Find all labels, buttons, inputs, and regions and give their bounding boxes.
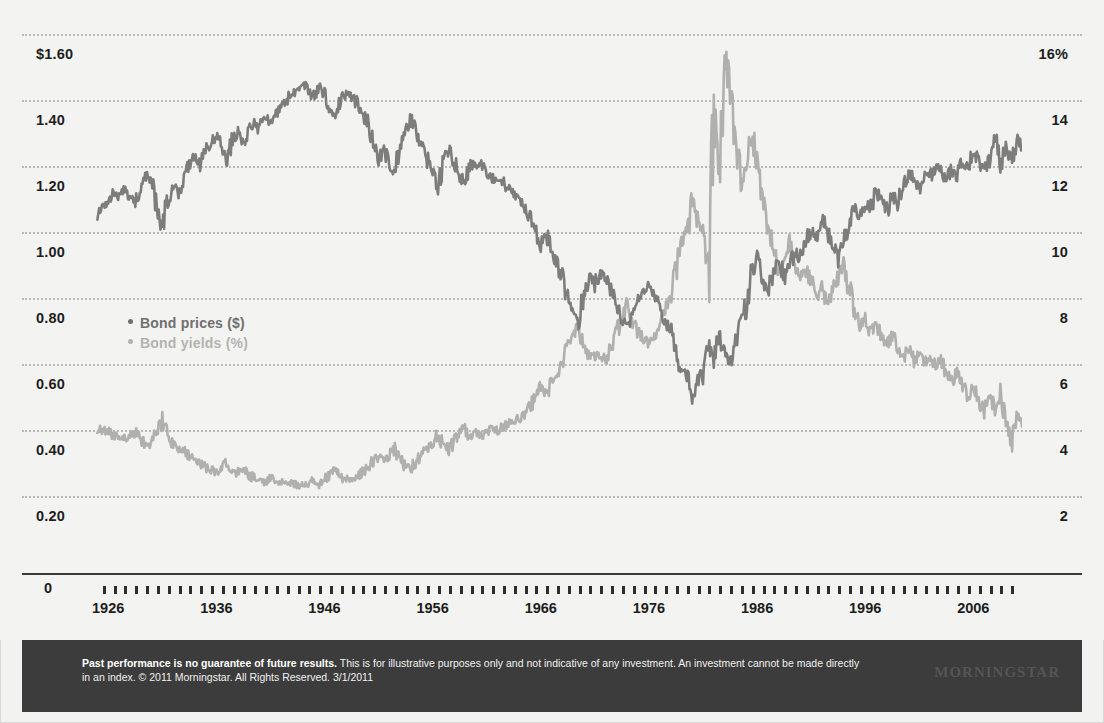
x-axis-tick-label: 1986 <box>741 600 773 616</box>
x-axis-tick-label: 1996 <box>849 600 881 616</box>
x-axis-tick <box>622 586 625 594</box>
y-axis-left-tick-label: 0.60 <box>36 376 65 392</box>
x-axis-tick <box>698 586 701 594</box>
y-axis-right-tick-label: 2 <box>1060 508 1068 524</box>
x-axis-tick <box>308 586 311 594</box>
x-axis-tick <box>481 586 484 594</box>
x-axis-tick <box>708 586 711 594</box>
x-axis-tick <box>600 586 603 594</box>
x-axis-tick <box>752 586 755 594</box>
x-axis-tick <box>124 586 127 594</box>
disclaimer-text: Past performance is no guarantee of futu… <box>82 656 862 684</box>
y-axis-left-tick-label: 1.20 <box>36 178 65 194</box>
x-axis-tick <box>968 586 971 594</box>
y-axis-left-tick-label: 0.80 <box>36 310 65 326</box>
plot-lines <box>92 34 1022 496</box>
y-axis-right-tick-label: 14 <box>1051 112 1068 128</box>
x-axis-tick <box>492 586 495 594</box>
x-axis-tick <box>611 586 614 594</box>
chart-area: $1.601.401.201.000.800.600.400.20 16%141… <box>0 0 1104 640</box>
x-axis-tick <box>1000 586 1003 594</box>
x-axis-tick <box>157 586 160 594</box>
x-axis-tick <box>319 586 322 594</box>
x-axis-tick <box>849 586 852 594</box>
y-axis-right-tick-label: 6 <box>1060 376 1068 392</box>
x-axis-tick <box>179 586 182 594</box>
x-axis-tick <box>287 586 290 594</box>
x-axis-tick <box>1011 586 1014 594</box>
x-axis-tick <box>211 586 214 594</box>
y-axis-right-tick-label: 12 <box>1051 178 1068 194</box>
legend-item-bond-yields: Bond yields (%) <box>128 334 248 352</box>
x-axis-tick <box>773 586 776 594</box>
morningstar-logo: MORNINGSTAR <box>934 664 1060 681</box>
x-axis-tick <box>881 586 884 594</box>
x-axis-tick <box>406 586 409 594</box>
legend-label: Bond yields (%) <box>140 335 248 351</box>
x-axis-tick <box>730 586 733 594</box>
x-axis-tick <box>200 586 203 594</box>
x-axis-tick <box>568 586 571 594</box>
bond-prices-line <box>97 82 1022 404</box>
x-axis-tick-label: 1976 <box>633 600 665 616</box>
x-axis-tick <box>795 586 798 594</box>
legend-dot-icon <box>128 339 133 344</box>
y-axis-left-tick-label: 0.20 <box>36 508 65 524</box>
x-axis-zero-label: 0 <box>44 580 52 596</box>
y-axis-left-tick-label: 0.40 <box>36 442 65 458</box>
y-axis-right-tick-label: 16% <box>1038 46 1068 62</box>
x-axis-tick <box>395 586 398 594</box>
x-axis-tick-label: 1936 <box>200 600 232 616</box>
x-axis-tick <box>471 586 474 594</box>
x-axis-tick <box>903 586 906 594</box>
x-axis-tick <box>990 586 993 594</box>
y-axis-right-tick-label: 4 <box>1060 442 1068 458</box>
x-axis-tick <box>233 586 236 594</box>
x-axis-tick <box>979 586 982 594</box>
x-axis-tick <box>654 586 657 594</box>
legend-label: Bond prices ($) <box>140 315 245 331</box>
x-axis-tick <box>957 586 960 594</box>
x-axis-tick <box>449 586 452 594</box>
x-axis-tick <box>644 586 647 594</box>
x-axis-tick <box>276 586 279 594</box>
legend-dot-icon <box>128 319 133 324</box>
x-axis-tick <box>525 586 528 594</box>
x-axis-ticks <box>92 586 1022 598</box>
x-axis-tick <box>168 586 171 594</box>
x-axis-tick <box>189 586 192 594</box>
x-axis-tick <box>114 586 117 594</box>
x-axis-line <box>22 573 1082 575</box>
x-axis-tick <box>514 586 517 594</box>
x-axis-tick-label: 2006 <box>957 600 989 616</box>
x-axis-tick <box>741 586 744 594</box>
x-axis-tick <box>265 586 268 594</box>
x-axis-tick <box>719 586 722 594</box>
x-axis-tick-label: 1966 <box>525 600 557 616</box>
x-axis-tick <box>806 586 809 594</box>
x-axis-tick <box>373 586 376 594</box>
x-axis-tick <box>817 586 820 594</box>
x-axis-tick <box>427 586 430 594</box>
gridline <box>22 496 1082 498</box>
x-axis-tick <box>914 586 917 594</box>
x-axis-tick <box>589 586 592 594</box>
y-axis-left-tick-label: 1.40 <box>36 112 65 128</box>
x-axis-tick <box>535 586 538 594</box>
x-axis-tick <box>146 586 149 594</box>
disclaimer-footer: Past performance is no guarantee of futu… <box>22 640 1082 712</box>
x-axis-tick <box>103 586 106 594</box>
x-axis-tick <box>416 586 419 594</box>
x-axis-tick-label: 1956 <box>416 600 448 616</box>
disclaimer-bold-lead: Past performance is no guarantee of futu… <box>82 657 337 669</box>
x-axis-tick <box>763 586 766 594</box>
x-axis-tick <box>503 586 506 594</box>
x-axis-tick <box>687 586 690 594</box>
x-axis-tick <box>784 586 787 594</box>
x-axis-tick <box>579 586 582 594</box>
x-axis-tick <box>860 586 863 594</box>
x-axis-tick <box>384 586 387 594</box>
x-axis-tick <box>341 586 344 594</box>
x-axis-tick <box>438 586 441 594</box>
x-axis-tick <box>827 586 830 594</box>
